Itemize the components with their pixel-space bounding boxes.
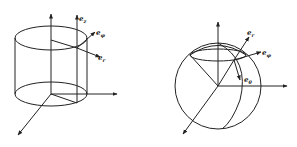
er-vector <box>77 48 100 57</box>
label-ez: ez <box>79 14 86 24</box>
x-axis <box>18 94 51 135</box>
etheta-vector <box>234 60 240 80</box>
cylindrical-diagram: ez eφ er <box>15 14 117 135</box>
x-axis <box>183 86 218 134</box>
spherical-diagram: er eφ eθ <box>175 22 287 134</box>
label-etheta: eθ <box>244 75 252 85</box>
label-er: er <box>98 53 105 63</box>
label-er: er <box>247 28 254 38</box>
label-ephi: eφ <box>262 48 271 59</box>
label-ephi: eφ <box>96 28 105 39</box>
